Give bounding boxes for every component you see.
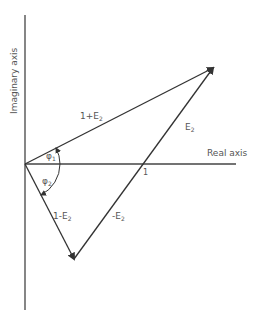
label-one-minus-e2: 1-E2 — [53, 211, 72, 222]
phasor-diagram: Imaginary axis Real axis 1 1+E2 E2 1-E2 … — [0, 0, 271, 321]
unit-mark-label: 1 — [143, 168, 148, 177]
real-axis-label: Real axis — [207, 148, 248, 158]
imaginary-axis-label: Imaginary axis — [9, 47, 19, 114]
angle-phi1-arc — [56, 148, 60, 164]
label-phi1: φ1 — [46, 151, 56, 162]
label-one-plus-e2: 1+E2 — [80, 111, 103, 122]
label-phi2: φ2 — [42, 176, 52, 187]
label-e2: E2 — [185, 122, 195, 133]
vector-one-plus-e2 — [25, 68, 213, 164]
label-minus-e2: -E2 — [112, 211, 125, 222]
